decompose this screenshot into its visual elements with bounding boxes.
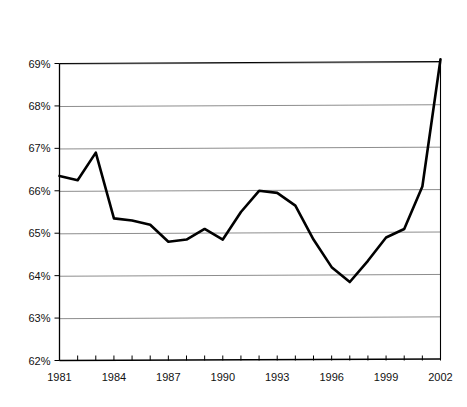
x-axis-tick-label: 1984 [102, 371, 126, 383]
x-axis-tick-label: 1996 [319, 371, 343, 383]
y-axis-tick-label: 66% [28, 185, 50, 197]
chart-container: Retail Sales as a Share of Taxable Sales… [0, 0, 467, 407]
line-chart-plot: 69%68%67%66%65%64%63%62% 198119841987199… [0, 0, 467, 407]
x-axis-tick-label: 1990 [211, 371, 235, 383]
y-axis-tick-label: 68% [28, 100, 50, 112]
y-axis-tick-label: 63% [28, 312, 50, 324]
y-axis-tick-label: 62% [28, 355, 50, 367]
y-axis-tick-label: 64% [28, 270, 50, 282]
y-axis-tick-label: 67% [28, 142, 50, 154]
x-axis-tick-label: 1993 [265, 371, 289, 383]
x-axis-tick-label: 1981 [47, 371, 71, 383]
x-axis-tick-label: 1987 [156, 371, 180, 383]
x-axis-tick-label: 1999 [374, 371, 398, 383]
plot-background [0, 0, 467, 407]
x-axis-tick-label: 2002 [428, 371, 452, 383]
y-axis-tick-label: 65% [28, 227, 50, 239]
y-axis-tick-label: 69% [28, 58, 50, 70]
